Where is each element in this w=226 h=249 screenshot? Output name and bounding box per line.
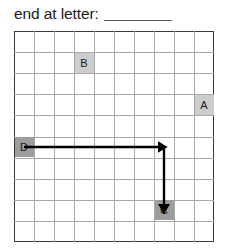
prompt-row: end at letter: — [14, 2, 214, 26]
worksheet-page: end at letter: BADC — [0, 0, 226, 249]
answer-blank-input[interactable] — [104, 7, 172, 21]
prompt-label: end at letter: — [14, 5, 99, 23]
grid-cell-c[interactable]: C — [155, 200, 174, 220]
grid-cell-d[interactable]: D — [15, 137, 34, 157]
puzzle-grid[interactable]: BADC — [14, 31, 214, 242]
grid-cell-a[interactable]: A — [195, 95, 214, 115]
grid-cell-b[interactable]: B — [75, 53, 94, 73]
grid-border — [14, 31, 214, 242]
